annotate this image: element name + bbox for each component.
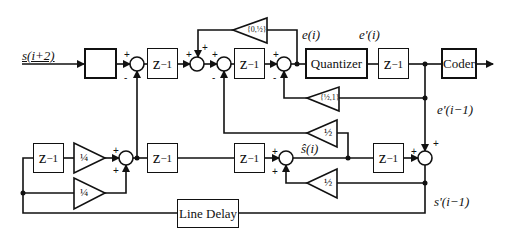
sign-minus: -: [273, 72, 276, 83]
delay-label: z: [240, 148, 248, 168]
delay-exponent: −1: [247, 152, 259, 164]
delay-block-3: z−1: [378, 48, 409, 79]
delay-exponent: −1: [247, 58, 259, 70]
gain-quarter-lower: [74, 178, 105, 209]
block-diagram: [0, 0, 506, 243]
quantizer-block: Quantizer: [305, 48, 368, 79]
sum-junction-7: [119, 151, 133, 165]
sign-plus: +: [113, 165, 119, 176]
sign-minus: -: [124, 72, 127, 83]
delay-exponent: −1: [386, 152, 398, 164]
gain-top-feedback-label: {0,½}: [247, 25, 267, 34]
delay-label: z: [153, 148, 161, 168]
sign-plus: +: [212, 49, 218, 60]
delay-block-4: z−1: [33, 143, 64, 173]
junction-node: [295, 62, 300, 67]
sign-plus: +: [433, 138, 439, 149]
junction-node: [423, 96, 428, 101]
sum-junction-3: [217, 57, 231, 71]
delay-exponent: −1: [391, 58, 403, 70]
line-delay-block: Line Delay: [177, 199, 239, 228]
gain-half-lower-label: ½: [324, 176, 332, 188]
delay-exponent: −1: [46, 152, 58, 164]
delay-label: z: [39, 148, 47, 168]
gain-quarter-lower-label: ¼: [80, 186, 88, 198]
sign-plus: +: [124, 49, 130, 60]
gain-quantizer-feedback-label: {½,1}: [320, 93, 340, 102]
delay-block-1: z−1: [147, 48, 178, 79]
error-signal-label: e(i): [302, 27, 320, 43]
sum-junction-6: [418, 151, 432, 165]
reconstructed-signal-label: s'(i−1): [434, 194, 469, 210]
gain-quarter-upper-label: ¼: [80, 151, 88, 163]
delay-block-6: z−1: [234, 143, 265, 173]
delay-exponent: −1: [160, 152, 172, 164]
coder-block: Coder: [441, 48, 477, 79]
junction-node: [423, 181, 428, 186]
junction-node: [135, 156, 140, 161]
delay-label: z: [379, 148, 387, 168]
delay-exponent: −1: [160, 58, 172, 70]
sign-minus: -: [212, 72, 215, 83]
sum-junction-4: [277, 57, 291, 71]
sign-plus: +: [186, 49, 192, 60]
input-signal-label: s(i+2): [22, 48, 55, 64]
gain-quarter-upper: [74, 143, 105, 173]
junction-node: [346, 156, 351, 161]
junction-node: [423, 62, 428, 67]
sum-junction-1: [130, 57, 144, 71]
sum-junction-2: [190, 57, 204, 71]
delay-label: z: [384, 54, 392, 74]
sign-plus: +: [202, 42, 208, 53]
delay-label: z: [153, 54, 161, 74]
delay-block-7: z−1: [373, 143, 404, 173]
gain-half-lower: [307, 169, 337, 198]
sign-plus: +: [273, 49, 279, 60]
sign-plus: +: [411, 146, 417, 157]
sum-junction-5: [279, 151, 293, 165]
junction-node: [21, 191, 26, 196]
delay-block-5: z−1: [147, 143, 178, 173]
delayed-quantized-error-label: e'(i−1): [437, 102, 473, 118]
delay-label: z: [240, 54, 248, 74]
sign-plus: +: [113, 145, 119, 156]
sign-plus: +: [272, 166, 278, 177]
limiter-block: [84, 48, 117, 79]
gain-half-upper-label: ½: [324, 126, 332, 138]
quantized-error-label: e'(i): [359, 27, 380, 43]
sign-plus: +: [272, 146, 278, 157]
delay-block-2: z−1: [234, 48, 265, 79]
prediction-label: ŝ(i): [301, 141, 318, 157]
